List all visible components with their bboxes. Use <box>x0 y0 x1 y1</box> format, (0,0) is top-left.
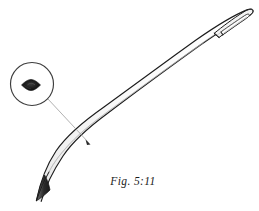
figure-container: Fig. 5:11 <box>0 0 259 211</box>
figure-caption: Fig. 5:11 <box>98 175 168 187</box>
magnified-cross-section <box>11 63 54 106</box>
